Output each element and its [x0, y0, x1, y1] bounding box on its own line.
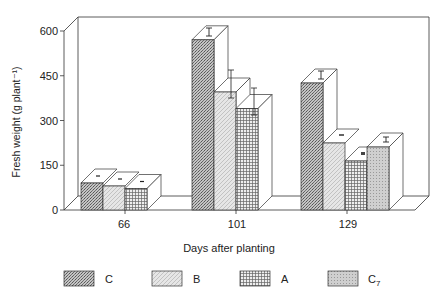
svg-text:300: 300 — [40, 115, 58, 127]
legend-swatch-c — [64, 271, 94, 286]
bar-group-129 — [301, 69, 403, 210]
svg-text:450: 450 — [40, 70, 58, 82]
svg-text:A: A — [281, 273, 289, 285]
svg-text:129: 129 — [339, 218, 357, 230]
legend-swatch-c7 — [328, 271, 358, 286]
y-axis-title: Fresh weight (g plant⁻¹) — [10, 66, 22, 177]
svg-text:B: B — [193, 273, 200, 285]
legend-item-b: B — [152, 271, 200, 286]
svg-text:66: 66 — [118, 218, 130, 230]
svg-text:0: 0 — [52, 204, 58, 216]
y-axis-ticks — [60, 31, 64, 210]
chart-canvas: 600 450 300 150 0 Fresh weight (g plant⁻… — [0, 0, 447, 301]
legend: C B A C7 — [64, 271, 381, 288]
legend-swatch-b — [152, 271, 182, 286]
svg-text:150: 150 — [40, 159, 58, 171]
svg-text:101: 101 — [228, 218, 246, 230]
legend-label-c7-sub: 7 — [376, 279, 381, 288]
y-axis-labels: 600 450 300 150 0 — [40, 25, 58, 216]
x-axis-labels: 66 101 129 — [118, 218, 357, 230]
legend-swatch-a — [240, 271, 270, 286]
bar-group-66 — [81, 169, 161, 210]
svg-text:C: C — [105, 273, 113, 285]
legend-label-c7: C — [368, 273, 376, 285]
svg-text:C7: C7 — [368, 273, 381, 288]
x-axis-title: Days after planting — [183, 242, 275, 254]
x-axis-ticks — [125, 210, 347, 214]
legend-item-c: C — [64, 271, 113, 286]
bar-group-101 — [192, 26, 272, 210]
svg-text:600: 600 — [40, 25, 58, 37]
legend-item-c7: C7 — [328, 271, 381, 288]
legend-item-a: A — [240, 271, 289, 286]
